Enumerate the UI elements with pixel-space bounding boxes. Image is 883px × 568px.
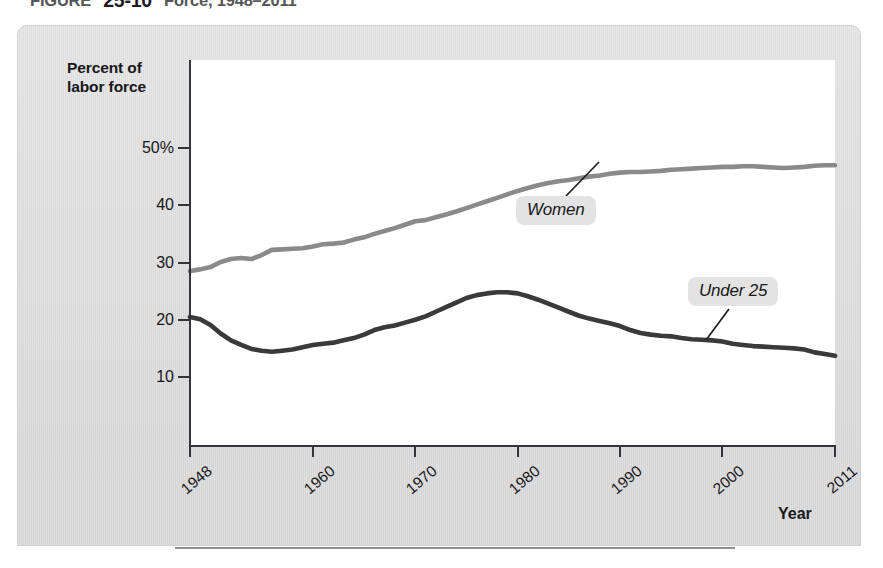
series-label-women: Women — [516, 196, 596, 225]
x-axis-tick-mark — [721, 446, 723, 457]
y-axis-tick-label: 30 — [114, 254, 174, 272]
y-axis-tick-label: 10 — [114, 368, 174, 386]
y-axis-title-line-1: Percent of — [67, 58, 146, 77]
y-axis-line — [189, 60, 191, 447]
series-line-women — [190, 165, 835, 271]
x-axis-title: Year — [778, 505, 812, 523]
y-axis-tick-mark — [178, 262, 191, 264]
x-axis-tick-mark — [619, 446, 621, 457]
x-axis-tick-mark — [414, 446, 416, 457]
plot-area — [190, 60, 835, 445]
x-axis-tick-mark — [834, 446, 836, 457]
y-axis-tick-label: 40 — [114, 196, 174, 214]
x-axis-line — [189, 445, 836, 447]
figure-caption: FIGURE 25-10 Force, 1948–2011 — [0, 0, 883, 13]
figure-root: FIGURE 25-10 Force, 1948–2011 Percent of… — [0, 0, 883, 568]
y-axis-tick-mark — [178, 319, 191, 321]
y-axis-tick-label: 20 — [114, 311, 174, 329]
y-axis-tick-mark — [178, 147, 191, 149]
y-axis-tick-mark — [178, 376, 191, 378]
y-axis-tick-mark — [178, 204, 191, 206]
x-axis-tick-mark — [312, 446, 314, 457]
y-axis-title: Percent of labor force — [67, 58, 146, 96]
figure-caption-number: 25-10 — [98, 0, 157, 12]
series-label-under-25: Under 25 — [688, 277, 778, 306]
y-axis-tick-label: 50% — [114, 139, 174, 157]
figure-caption-prefix: FIGURE — [30, 0, 91, 10]
footer-rule — [175, 547, 735, 549]
figure-caption-rest: Force, 1948–2011 — [164, 0, 297, 10]
y-axis-title-line-2: labor force — [67, 77, 146, 96]
series-container — [190, 60, 835, 445]
x-axis-tick-mark — [517, 446, 519, 457]
x-axis-tick-mark — [189, 446, 191, 457]
